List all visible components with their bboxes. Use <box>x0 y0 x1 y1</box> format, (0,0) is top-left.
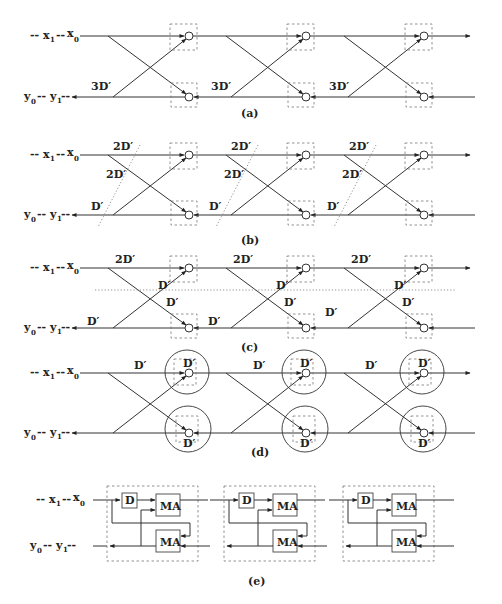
adder-node-top <box>302 151 310 159</box>
adder-node-bottom <box>420 324 428 332</box>
adder-node-bottom <box>302 429 310 437</box>
tap-wire <box>258 510 272 546</box>
input-dash: -- <box>30 366 39 379</box>
panel-a: --x1--x0y0--y1--3D′3D′3D′(a) <box>23 24 475 120</box>
tap-wire <box>377 510 391 546</box>
cross-down-wire <box>108 373 186 430</box>
adder-node-bottom <box>185 429 193 437</box>
output-dash: -- <box>61 321 70 334</box>
pipeline-box-bottom <box>288 83 314 107</box>
input-dash: -- <box>62 493 71 506</box>
adder-node-top <box>420 369 428 377</box>
input-dash: -- <box>56 148 65 161</box>
delay-label: D′ <box>365 359 378 372</box>
input-x1-sub: 1 <box>50 35 55 44</box>
delay-label: 2D′ <box>349 140 369 153</box>
adder-node-top <box>302 32 310 40</box>
input-dash: -- <box>30 148 39 161</box>
delay-label: D′ <box>402 296 415 309</box>
output-y0-sub: 0 <box>31 328 36 337</box>
delay-label: D′ <box>276 279 289 292</box>
cross-down-wire <box>344 155 421 212</box>
input-x1-sub: 1 <box>50 267 55 276</box>
delay-label: D′ <box>300 437 313 450</box>
delay-label: D′ <box>325 306 338 319</box>
panel-c: --x1--x0y0--y1--2D′D′D′2D′D′D′2D′D′D′D′D… <box>23 253 475 354</box>
tap-wire <box>141 510 155 546</box>
caption-c: (c) <box>241 341 258 354</box>
input-dash: -- <box>30 261 39 274</box>
input-x0: x <box>67 259 74 272</box>
caption-d: (d) <box>251 446 269 459</box>
adder-node-top <box>420 151 428 159</box>
adder-node-bottom <box>420 211 428 219</box>
delay-label: 2D′ <box>342 168 362 181</box>
cross-down-wire <box>344 373 421 430</box>
cross-down-wire <box>226 373 303 430</box>
delay-label: 2D′ <box>231 140 251 153</box>
input-x0: x <box>67 146 74 159</box>
adder-node-bottom <box>185 93 193 101</box>
output-dash: -- <box>61 90 70 103</box>
adder-node-top <box>185 369 193 377</box>
output-y1: y <box>49 90 57 103</box>
delay-label: D′ <box>418 357 431 370</box>
delay-label: 2D′ <box>106 168 126 181</box>
pipeline-box-bottom <box>288 314 314 338</box>
delay-block-label: D <box>361 494 371 507</box>
pipeline-box-bottom <box>406 314 432 338</box>
input-x1-sub: 1 <box>56 499 61 508</box>
input-x0-sub: 0 <box>80 499 85 508</box>
input-x1-sub: 1 <box>50 372 55 381</box>
input-dash: -- <box>30 29 39 42</box>
output-dash: -- <box>67 539 76 552</box>
output-y1: y <box>49 426 57 439</box>
delay-label: 2D′ <box>224 168 244 181</box>
input-x0-sub: 0 <box>74 267 79 276</box>
delay-label: 2D′ <box>233 253 253 266</box>
output-y0-sub: 0 <box>31 215 36 224</box>
adder-node-bottom <box>302 324 310 332</box>
adder-node-top <box>302 369 310 377</box>
ma-label: MA <box>277 500 298 513</box>
cross-down-wire <box>226 36 303 94</box>
input-x1: x <box>43 261 50 274</box>
delay-label: D′ <box>253 359 266 372</box>
lattice-filter-diagram: --x1--x0y0--y1--3D′3D′3D′(a)--x1--x0y0--… <box>0 0 502 604</box>
input-dash: -- <box>36 493 45 506</box>
adder-node-top <box>185 151 193 159</box>
pipeline-box-bottom <box>171 201 197 225</box>
delay-label: D′ <box>183 437 196 450</box>
input-x0: x <box>67 364 74 377</box>
pipeline-box-bottom <box>288 201 314 225</box>
panel-b: --x1--x0y0--y1--2D′2D′D′2D′2D′D′2D′2D′D′… <box>23 140 475 247</box>
ma-label: MA <box>396 536 417 549</box>
adder-node-top <box>302 264 310 272</box>
input-x1-sub: 1 <box>50 154 55 163</box>
delay-label: D′ <box>87 315 100 328</box>
output-y1: y <box>49 321 57 334</box>
delay-label: 2D′ <box>351 253 371 266</box>
input-x1: x <box>43 29 50 42</box>
delay-label: D′ <box>284 296 297 309</box>
delay-label: D′ <box>166 296 179 309</box>
output-dash: -- <box>37 321 46 334</box>
output-dash: -- <box>37 208 46 221</box>
ma-label: MA <box>277 536 298 549</box>
delay-label: D′ <box>183 357 196 370</box>
delay-block-label: D <box>242 494 252 507</box>
input-dash: -- <box>56 261 65 274</box>
caption-e: (e) <box>248 575 265 588</box>
input-x0: x <box>67 27 74 40</box>
pipeline-box-bottom <box>406 201 432 225</box>
delay-label: D′ <box>134 359 147 372</box>
output-y0-sub: 0 <box>31 97 36 106</box>
adder-node-top <box>185 32 193 40</box>
delay-label: 2D′ <box>115 253 135 266</box>
delay-label: 2D′ <box>113 140 133 153</box>
output-dash: -- <box>37 426 46 439</box>
output-y0-sub: 0 <box>31 433 36 442</box>
pipeline-box-bottom <box>171 314 197 338</box>
output-y0: y <box>23 208 31 221</box>
output-y1: y <box>55 539 63 552</box>
